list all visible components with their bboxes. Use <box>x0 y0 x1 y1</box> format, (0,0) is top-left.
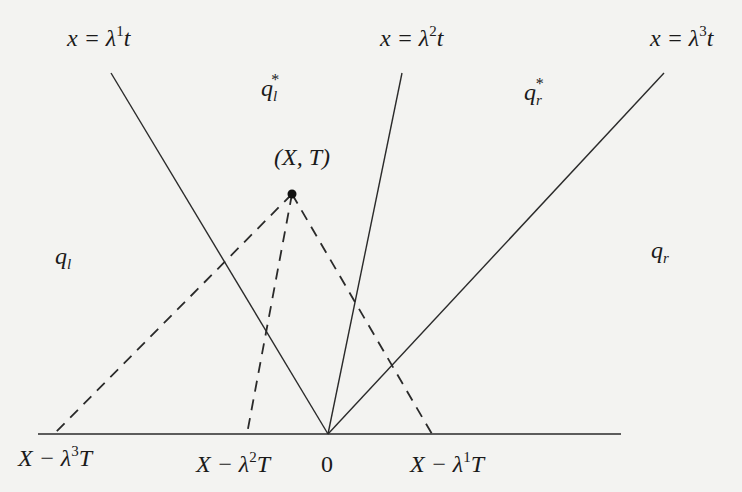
label-text: X − λ <box>410 451 463 477</box>
foot-label-x-minus-lambda3-t: X − λ3T <box>18 446 92 470</box>
label-text: X − λ <box>196 451 249 477</box>
label-superscript: 2 <box>249 449 257 465</box>
label-lambda2-line: x = λ2t <box>380 26 443 50</box>
label-text: t <box>707 25 714 51</box>
state-label-q-l-star: ql* <box>261 76 279 100</box>
label-text: x = λ <box>650 25 699 51</box>
state-label-q-r-star: qr* <box>524 80 544 104</box>
diagram-canvas <box>0 0 742 492</box>
label-text: X − λ <box>18 445 71 471</box>
label-text: T <box>79 445 92 471</box>
label-lambda1-line: x = λ1t <box>67 26 130 50</box>
characteristic-line-lambda1 <box>111 73 328 434</box>
label-superscript: * <box>271 71 279 88</box>
label-superscript: 2 <box>429 23 437 39</box>
state-label-q-l: ql <box>55 244 71 268</box>
label-subscript: l <box>273 88 277 104</box>
point-x-t-marker <box>288 190 297 199</box>
label-text: t <box>437 25 444 51</box>
label-superscript: 1 <box>463 449 471 465</box>
state-label-q-r: qr <box>651 238 669 262</box>
label-lambda3-line: x = λ3t <box>650 26 713 50</box>
label-text: T <box>471 451 484 477</box>
label-text: T <box>257 451 270 477</box>
label-text: q <box>55 243 67 269</box>
label-subscript: r <box>663 250 669 266</box>
characteristic-line-lambda2 <box>328 73 402 434</box>
label-text: x = λ <box>380 25 429 51</box>
foot-label-x-minus-lambda2-t: X − λ2T <box>196 452 270 476</box>
label-text: x = λ <box>67 25 116 51</box>
foot-label-origin-zero: 0 <box>321 452 333 476</box>
label-superscript: * <box>536 75 544 92</box>
label-text: t <box>124 25 131 51</box>
label-superscript: 1 <box>116 23 124 39</box>
label-superscript: 3 <box>699 23 707 39</box>
back-characteristic-lambda2 <box>247 194 292 434</box>
label-text: q <box>524 79 536 105</box>
label-superscript: 3 <box>71 443 79 459</box>
label-subscript: r <box>536 92 542 108</box>
label-subscript: l <box>67 256 71 272</box>
characteristic-line-lambda3 <box>328 73 664 434</box>
label-text: q <box>651 237 663 263</box>
foot-label-x-minus-lambda1-t: X − λ1T <box>410 452 484 476</box>
point-label-x-t: (X, T) <box>274 145 330 169</box>
